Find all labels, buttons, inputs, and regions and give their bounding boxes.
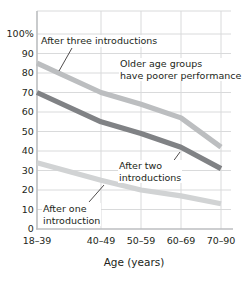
annotation-after-one-line-2: introduction xyxy=(43,215,100,227)
annotation-older-age-line-2: have poorer performance xyxy=(120,70,241,82)
ytick-label-50: 50 xyxy=(0,126,34,137)
ytick-label-0: 0 xyxy=(0,223,34,234)
xtick-label-18-39: 18–39 xyxy=(14,235,60,246)
ytick-label-60: 60 xyxy=(0,106,34,117)
ytick-label-90: 90 xyxy=(0,48,34,59)
line-chart: 100% 90 80 70 60 50 40 30 20 10 0 18–39 … xyxy=(0,0,244,286)
annotation-older-age-groups: Older age groups have poorer performance xyxy=(119,58,242,81)
annotation-after-one-line-1: After one xyxy=(43,203,100,215)
ytick-label-20: 20 xyxy=(0,184,34,195)
ytick-label-40: 40 xyxy=(0,145,34,156)
annotation-after-two-introductions: After two introductions xyxy=(118,160,182,183)
annotation-after-one-introduction: After one introduction xyxy=(42,203,101,226)
ytick-label-70: 70 xyxy=(0,87,34,98)
ytick-label-10: 10 xyxy=(0,204,34,215)
leader-line-after-three xyxy=(59,48,72,71)
ytick-label-100: 100% xyxy=(0,28,34,39)
annotation-older-age-line-1: Older age groups xyxy=(120,58,241,70)
annotation-after-two-line-1: After two xyxy=(119,160,181,172)
annotation-after-two-line-2: introductions xyxy=(119,172,181,184)
series-line-after-two-introductions xyxy=(37,93,221,169)
xtick-label-70-90: 70–90 xyxy=(198,235,244,246)
x-axis-title: Age (years) xyxy=(37,256,231,268)
annotation-after-three-line-1: After three introductions xyxy=(41,35,157,47)
ytick-label-30: 30 xyxy=(0,165,34,176)
annotation-after-three-introductions: After three introductions xyxy=(40,35,158,47)
ytick-label-80: 80 xyxy=(0,67,34,78)
leader-line-after-one xyxy=(89,185,104,202)
